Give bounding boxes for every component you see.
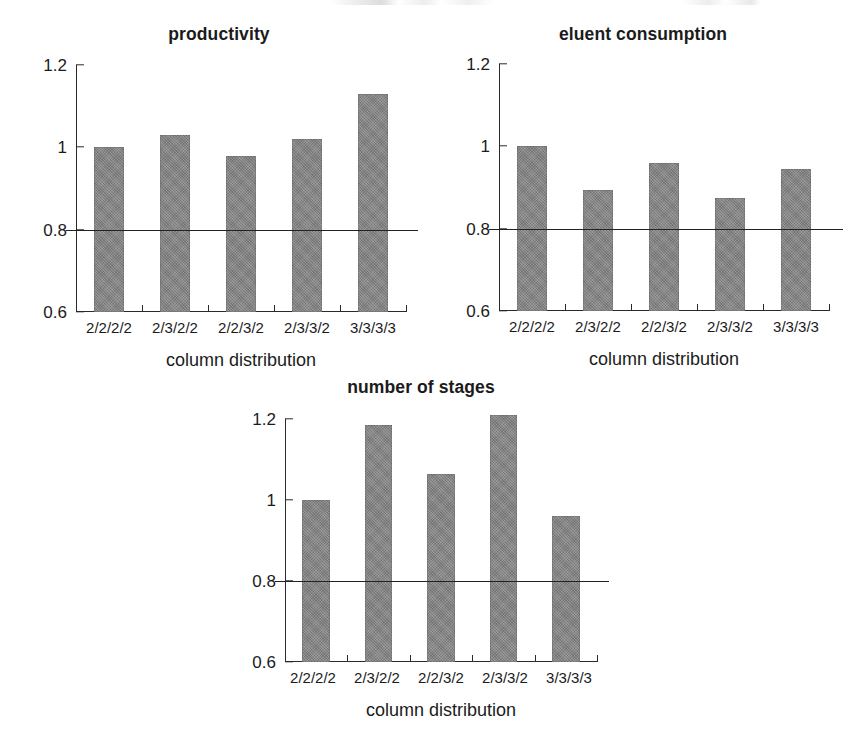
x-tick-label: 3/3/3/3 — [537, 670, 601, 685]
y-tick-label: 0.8 — [466, 220, 490, 237]
y-tick-label: 1.2 — [43, 57, 67, 74]
y-tick-label: 1 — [267, 491, 276, 508]
bar[interactable] — [226, 156, 255, 312]
reference-line-1 — [489, 229, 843, 230]
x-tick-label: 2/2/3/2 — [409, 670, 473, 685]
chart-panel-productivity: productivity 1.2 1 0.8 0.6 — [14, 24, 424, 369]
x-tick-label: 3/3/3/3 — [763, 319, 829, 334]
x-axis-title: column distribution — [281, 701, 601, 719]
bar-slot — [535, 419, 597, 662]
x-tick-label: 2/2/3/2 — [208, 320, 274, 335]
x-axis-title: column distribution — [499, 350, 829, 368]
bar-slot — [565, 64, 631, 311]
y-tick-label: 1.2 — [252, 411, 276, 428]
bar[interactable] — [160, 135, 189, 312]
bar-slot — [472, 419, 534, 662]
bar[interactable] — [583, 190, 612, 311]
bar-series — [285, 419, 597, 662]
bar-series — [499, 64, 829, 311]
x-tick-mark — [829, 304, 830, 311]
plot-area: 1.2 1 0.8 0.6 — [76, 65, 406, 312]
y-tick-label: 0.6 — [252, 654, 276, 671]
x-tick-mark — [406, 305, 407, 312]
plot-area: 1.2 1 0.8 0.6 — [285, 419, 597, 662]
bar[interactable] — [292, 139, 321, 312]
bar-slot — [142, 65, 208, 312]
bar-slot — [631, 64, 697, 311]
bar-slot — [76, 65, 142, 312]
y-tick-label: 1 — [58, 139, 67, 156]
bar[interactable] — [649, 163, 678, 311]
bar[interactable] — [715, 198, 744, 311]
x-tick-label: 2/3/2/2 — [142, 320, 208, 335]
x-tick-label: 2/3/3/2 — [697, 319, 763, 334]
x-tick-label: 2/3/2/2 — [345, 670, 409, 685]
x-tick-labels: 2/2/2/2 2/3/2/2 2/2/3/2 2/3/3/2 3/3/3/3 — [76, 320, 406, 335]
x-axis-title-text: column distribution — [166, 350, 316, 370]
bar-slot — [285, 419, 347, 662]
bar-slot — [697, 64, 763, 311]
x-axis-title-text: column distribution — [366, 700, 516, 720]
x-tick-label: 2/3/2/2 — [565, 319, 631, 334]
bar[interactable] — [365, 425, 392, 662]
bar[interactable] — [427, 474, 454, 662]
y-tick-label: 0.6 — [43, 304, 67, 321]
bar-series — [76, 65, 406, 312]
chart-panel-eluent-consumption: eluent consumption 1.2 1 0.8 0.6 — [437, 24, 849, 369]
y-tick-label: 1 — [481, 138, 490, 155]
x-tick-label: 2/2/3/2 — [631, 319, 697, 334]
x-axis-title: column distribution — [76, 351, 406, 369]
bar-slot — [410, 419, 472, 662]
x-tick-labels: 2/2/2/2 2/3/2/2 2/2/3/2 2/3/3/2 3/3/3/3 — [499, 319, 829, 334]
bar-slot — [340, 65, 406, 312]
reference-line-1 — [275, 581, 609, 582]
x-tick-label: 2/3/3/2 — [473, 670, 537, 685]
x-axis-title-text: column distribution — [589, 349, 739, 369]
chart-panel-number-of-stages: number of stages 1.2 1 0.8 0.6 — [211, 377, 631, 727]
y-tick-label: 0.8 — [252, 573, 276, 590]
y-tick-label: 0.8 — [43, 221, 67, 238]
bar[interactable] — [552, 516, 579, 662]
chart-title: eluent consumption — [437, 24, 849, 45]
x-tick-label: 2/2/2/2 — [499, 319, 565, 334]
x-tick-label: 2/2/2/2 — [76, 320, 142, 335]
bar-slot — [208, 65, 274, 312]
y-tick-label: 1.2 — [466, 56, 490, 73]
cropped-text-remnant — [330, 0, 760, 5]
bar-slot — [274, 65, 340, 312]
plot-area: 1.2 1 0.8 0.6 — [499, 64, 829, 311]
bar-slot — [499, 64, 565, 311]
bar[interactable] — [490, 415, 517, 662]
x-tick-label: 2/2/2/2 — [281, 670, 345, 685]
chart-title: number of stages — [211, 377, 631, 398]
bar[interactable] — [358, 94, 387, 312]
x-tick-label: 2/3/3/2 — [274, 320, 340, 335]
bar[interactable] — [781, 169, 810, 311]
x-tick-mark — [597, 655, 598, 662]
y-tick-label: 0.6 — [466, 303, 490, 320]
bar-slot — [763, 64, 829, 311]
bar-slot — [347, 419, 409, 662]
reference-line-1 — [66, 230, 418, 231]
x-tick-label: 3/3/3/3 — [340, 320, 406, 335]
chart-title: productivity — [14, 24, 424, 45]
x-tick-labels: 2/2/2/2 2/3/2/2 2/2/3/2 2/3/3/2 3/3/3/3 — [281, 670, 601, 685]
